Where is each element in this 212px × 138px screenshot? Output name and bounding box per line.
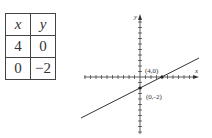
point-label-4-0: (4,0) bbox=[145, 67, 159, 75]
y-axis-label: y bbox=[133, 13, 138, 21]
point-0-neg2 bbox=[138, 86, 141, 89]
coordinate-graph: x y (4,0) (0,-2) bbox=[0, 0, 212, 138]
y-axis-arrow-icon bbox=[138, 14, 142, 20]
x-axis-arrow-icon bbox=[193, 75, 199, 79]
point-4-0 bbox=[160, 75, 163, 78]
x-axis-label: x bbox=[194, 67, 199, 75]
point-label-0-neg2: (0,-2) bbox=[146, 93, 162, 101]
